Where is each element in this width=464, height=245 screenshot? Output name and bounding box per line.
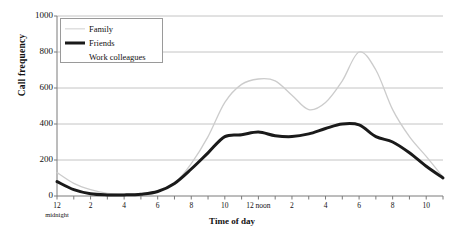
y-tick-label: 600 bbox=[13, 83, 53, 92]
x-tick-label: 10 bbox=[422, 202, 430, 210]
x-tick-label: 10 bbox=[221, 202, 229, 210]
y-axis-title: Call frequency bbox=[17, 10, 27, 120]
line-chart: Call frequency Time of day 0200400600800… bbox=[0, 0, 464, 245]
x-tick-label: 8 bbox=[391, 202, 395, 210]
legend-item-friends: Friends bbox=[61, 36, 162, 50]
y-tick-label: 400 bbox=[13, 119, 53, 128]
x-tick-label: 12midnight bbox=[45, 202, 68, 218]
x-tick-label: 6 bbox=[156, 202, 160, 210]
chart-legend: Family Friends Work colleagues bbox=[60, 18, 163, 63]
y-tick-label: 0 bbox=[13, 191, 53, 200]
legend-label-family: Family bbox=[89, 25, 113, 34]
x-tick-label: 2 bbox=[89, 202, 93, 210]
y-tick-label: 200 bbox=[13, 155, 53, 164]
x-tick-sublabel: midnight bbox=[45, 211, 68, 218]
legend-item-family: Family bbox=[61, 22, 162, 36]
x-axis-title: Time of day bbox=[0, 216, 464, 226]
legend-line-swatch-friends bbox=[64, 38, 86, 48]
legend-line-swatch-family bbox=[64, 24, 86, 34]
legend-item-work-colleagues: Work colleagues bbox=[61, 50, 162, 64]
y-tick-label: 1000 bbox=[13, 11, 53, 20]
legend-line-swatch-work-colleagues bbox=[64, 52, 86, 62]
series-line-family bbox=[57, 52, 443, 194]
series-line-friends bbox=[57, 123, 443, 195]
x-tick-label: 8 bbox=[189, 202, 193, 210]
x-tick-label: 6 bbox=[357, 202, 361, 210]
x-tick-label: 4 bbox=[122, 202, 126, 210]
x-tick-label: 4 bbox=[324, 202, 328, 210]
legend-label-friends: Friends bbox=[89, 39, 115, 48]
x-tick-label: 12 noon bbox=[246, 202, 270, 210]
y-tick-label: 800 bbox=[13, 47, 53, 56]
legend-label-work-colleagues: Work colleagues bbox=[89, 53, 146, 62]
x-tick-label: 2 bbox=[290, 202, 294, 210]
